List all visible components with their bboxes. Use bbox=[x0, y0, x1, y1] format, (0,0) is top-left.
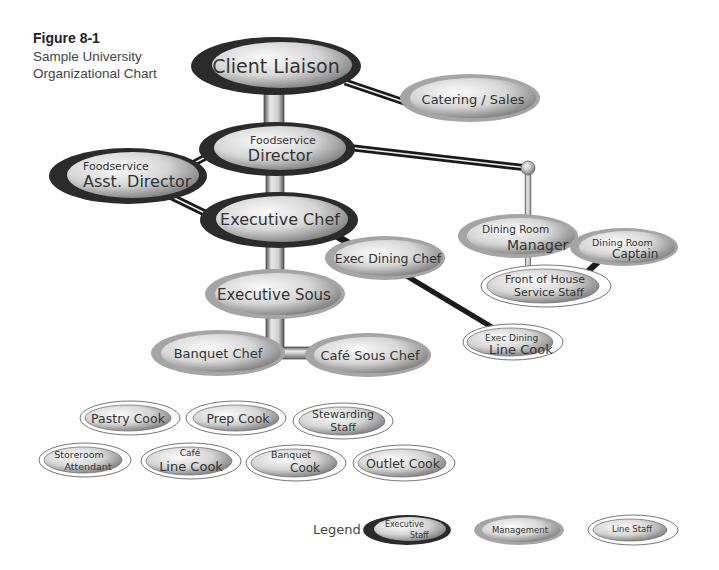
node-outlet-cook[interactable]: Outlet Cook bbox=[353, 445, 455, 481]
node-label: Prep Cook bbox=[206, 411, 270, 426]
node-label: Cook bbox=[290, 461, 320, 475]
node-pastry-cook[interactable]: Pastry Cook bbox=[80, 401, 180, 435]
node-storeroom-attendant[interactable]: Storeroom Attendant bbox=[39, 443, 131, 477]
node-executive-sous[interactable]: Executive Sous bbox=[205, 269, 345, 319]
node-label: Captain bbox=[612, 247, 658, 261]
node-stewarding-staff[interactable]: Stewarding Staff bbox=[293, 403, 393, 439]
node-banquet-cook[interactable]: Banquet Cook bbox=[246, 445, 346, 481]
node-label: Line Cook bbox=[159, 459, 223, 474]
legend-label-top: Executive bbox=[385, 520, 424, 529]
legend-label: Line Staff bbox=[612, 524, 653, 534]
node-label-top: Banquet bbox=[271, 449, 311, 460]
node-label: Asst. Director bbox=[83, 172, 192, 191]
node-label-top: Café bbox=[180, 448, 201, 458]
node-catering-sales[interactable]: Catering / Sales bbox=[400, 74, 540, 122]
node-cafe-line-cook[interactable]: Café Line Cook bbox=[141, 443, 241, 479]
node-foodservice-director[interactable]: Foodservice Director bbox=[199, 122, 355, 176]
node-label: Café Sous Chef bbox=[321, 348, 420, 363]
node-label-top: Dining Room bbox=[482, 223, 549, 235]
node-exec-dining-line-cook[interactable]: Exec Dining Line Cook bbox=[463, 324, 563, 360]
node-label: Catering / Sales bbox=[422, 92, 525, 107]
node-label: Staff bbox=[330, 421, 356, 434]
node-exec-dining-chef[interactable]: Exec Dining Chef bbox=[325, 236, 445, 280]
node-label-top: Storeroom bbox=[54, 449, 104, 460]
node-prep-cook[interactable]: Prep Cook bbox=[186, 401, 286, 435]
node-executive-chef[interactable]: Executive Chef bbox=[200, 192, 358, 248]
node-label: Director bbox=[248, 146, 313, 165]
node-label: Attendant bbox=[64, 461, 112, 472]
node-client-liaison[interactable]: Client Liaison bbox=[191, 37, 361, 95]
node-label: Line Cook bbox=[489, 342, 553, 357]
node-label: Pastry Cook bbox=[91, 411, 166, 426]
node-cafe-sous-chef[interactable]: Café Sous Chef bbox=[305, 333, 431, 377]
node-label-top: Front of House bbox=[505, 273, 585, 286]
node-label: Service Staff bbox=[514, 286, 584, 299]
legend-management: Management bbox=[474, 515, 564, 545]
legend-label: Staff bbox=[410, 531, 429, 540]
legend-title: Legend bbox=[313, 522, 361, 537]
node-dining-room-manager[interactable]: Dining Room Manager bbox=[458, 214, 578, 258]
node-asst-director[interactable]: Foodservice Asst. Director bbox=[49, 148, 207, 204]
node-label: Executive Sous bbox=[217, 286, 331, 304]
node-label-top: Stewarding bbox=[312, 408, 374, 421]
node-label: Banquet Chef bbox=[174, 346, 263, 361]
node-banquet-chef[interactable]: Banquet Chef bbox=[151, 330, 285, 376]
node-front-of-house[interactable]: Front of House Service Staff bbox=[481, 265, 611, 307]
node-label: Executive Chef bbox=[220, 210, 340, 229]
legend-executive-staff: Executive Staff bbox=[363, 515, 451, 545]
node-label: Exec Dining Chef bbox=[335, 251, 442, 266]
junction-node-icon bbox=[521, 161, 535, 175]
legend-line-staff: Line Staff bbox=[588, 515, 678, 545]
node-dining-room-captain[interactable]: Dining Room Captain bbox=[570, 228, 678, 266]
legend-label: Management bbox=[492, 525, 549, 535]
node-label: Client Liaison bbox=[212, 55, 339, 77]
org-chart: Client Liaison Catering / Sales Foodserv… bbox=[0, 0, 719, 570]
node-label: Manager bbox=[507, 237, 569, 253]
node-label: Outlet Cook bbox=[366, 456, 441, 471]
